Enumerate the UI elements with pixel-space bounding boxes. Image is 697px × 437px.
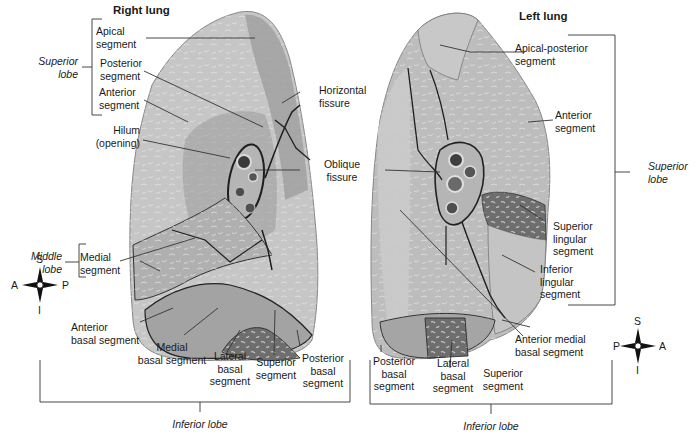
compass-left-anterior: A [659,340,666,352]
left-superior-lobe-label: Superior lobe [648,160,688,185]
compass-right-anterior: A [11,279,18,291]
lung-segments-diagram: Right lung Left lung Superior lobe Apica… [0,0,697,437]
left-lateral-basal-segment-label: Lateral basal segment [428,357,478,395]
left-posterior-basal-segment-label: Posterior basal segment [372,355,416,393]
inferior-lingular-segment-label: Inferior lingular segment [540,263,580,301]
right-superior-lobe-label: Superior lobe [30,55,78,80]
compass-left-posterior: P [613,340,620,352]
right-medial-basal-segment-label: Medial basal segment [134,341,210,366]
right-posterior-segment-label: Posterior segment [100,57,142,82]
compass-left-lung [620,328,656,364]
right-inferior-lobe-label: Inferior lobe [160,418,240,431]
right-anterior-basal-segment-label: Anterior basal segment [71,321,139,346]
left-superior-segment-label: Superior segment [478,367,528,392]
left-inferior-lobe-label: Inferior lobe [451,420,531,433]
right-lateral-basal-segment-label: Lateral basal segment [206,350,254,388]
anterior-medial-basal-segment-label: Anterior medial basal segment [515,333,586,358]
horizontal-fissure-label: Horizontal fissure [319,84,366,109]
left-lung-title: Left lung [519,10,568,22]
right-medial-segment-label: Medial segment [80,251,120,276]
right-lung-title: Right lung [113,4,170,16]
right-posterior-basal-segment-label: Posterior basal segment [298,352,348,390]
right-lung-drawing [130,11,318,360]
right-apical-segment-label: Apical segment [96,25,136,50]
oblique-fissure-label: Oblique fissure [317,158,367,183]
compass-left-superior: S [634,315,641,327]
compass-right-inferior: I [38,304,41,316]
right-superior-segment-label: Superior segment [252,356,300,381]
left-anterior-segment-label: Anterior segment [555,109,595,134]
right-anterior-segment-label: Anterior segment [99,86,139,111]
compass-right-posterior: P [62,279,69,291]
left-apical-posterior-segment-label: Apical-posterior segment [515,42,588,67]
compass-right-superior: S [36,253,43,265]
compass-left-inferior: I [636,364,639,376]
hilum-label: Hilum (opening) [90,124,140,149]
superior-lingular-segment-label: Superior lingular segment [553,220,593,258]
